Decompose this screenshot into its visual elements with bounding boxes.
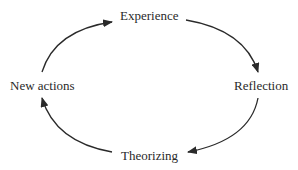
node-new-actions: New actions: [10, 79, 75, 93]
arrow-theorizing-to-new-actions: [42, 98, 112, 152]
node-experience: Experience: [120, 9, 178, 23]
arrow-reflection-to-theorizing: [188, 98, 258, 152]
arrow-experience-to-reflection: [186, 20, 258, 72]
arrow-new-actions-to-experience: [42, 22, 112, 72]
node-theorizing: Theorizing: [121, 149, 178, 163]
node-reflection: Reflection: [234, 79, 288, 93]
